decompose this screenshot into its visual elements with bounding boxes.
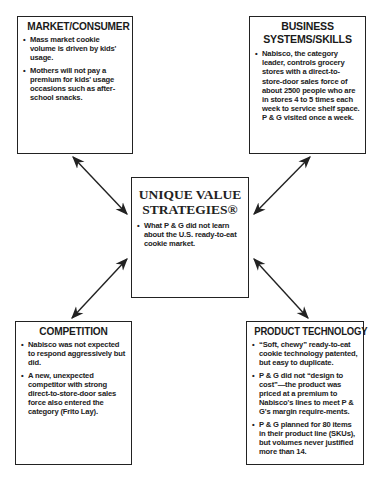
business-systems-title-line2: SYSTEMS/SKILLS [259,33,356,46]
unique-value-strategies-box: UNIQUE VALUE STRATEGIES® What P & G did … [131,177,249,298]
bullet-item: Nabisco was not expected to respond aggr… [21,340,126,368]
arrow-market-center [73,157,127,214]
competition-title: COMPETITION [25,325,122,337]
bullet-item: A new, unexpected competitor with strong… [21,371,126,417]
bullet-item: “Soft, chewy” ready-to-eat cookie techno… [252,340,358,368]
center-bullets: What P & G did not learn about the U.S. … [137,221,243,249]
product-technology-bullets: “Soft, chewy” ready-to-eat cookie techno… [252,340,358,456]
business-systems-bullets: Nabisco, the category leader, controls g… [255,49,360,123]
bullet-item: Mothers will not pay a premium for kids'… [23,66,127,103]
arrow-product-center [254,259,308,318]
business-systems-box: BUSINESS SYSTEMS/SKILLS Nabisco, the cat… [249,16,366,154]
market-consumer-box: MARKET/CONSUMER Mass market cookie volum… [17,16,133,154]
business-systems-title: BUSINESS SYSTEMS/SKILLS [259,20,356,46]
bullet-item: P & G did not “design to cost”—the produ… [252,371,358,417]
product-technology-box: PRODUCT TECHNOLOGY “Soft, chewy” ready-t… [246,321,364,465]
business-systems-title-line1: BUSINESS [259,20,356,33]
center-title-line2: STRATEGIES® [137,202,243,217]
center-title: UNIQUE VALUE STRATEGIES® [137,187,243,217]
arrow-business-center [254,157,310,214]
center-title-line1: UNIQUE VALUE [137,187,243,202]
bullet-item: Mass market cookie volume is driven by k… [23,35,127,63]
competition-box: COMPETITION Nabisco was not expected to … [15,321,132,465]
bullet-item: Nabisco, the category leader, controls g… [255,49,360,123]
product-technology-title: PRODUCT TECHNOLOGY [254,325,355,337]
bullet-item: What P & G did not learn about the U.S. … [137,221,243,249]
bullet-item: P & G planned for 80 items in their prod… [252,420,358,457]
competition-bullets: Nabisco was not expected to respond aggr… [21,340,126,417]
arrow-competition-center [72,259,127,318]
market-consumer-title: MARKET/CONSUMER [27,20,123,32]
market-consumer-bullets: Mass market cookie volume is driven by k… [23,35,127,102]
